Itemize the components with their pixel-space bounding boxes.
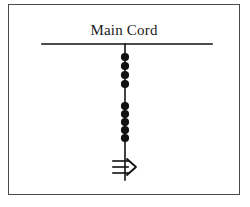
node-dot xyxy=(121,53,129,61)
node-dot xyxy=(121,126,129,134)
node-dot xyxy=(121,80,129,88)
terminal-ground-arrow xyxy=(113,159,136,175)
node-dot xyxy=(121,102,129,110)
node-dot xyxy=(121,110,129,118)
node-dot xyxy=(121,71,129,79)
node-dot xyxy=(121,62,129,70)
figure-root: Main Cord xyxy=(0,0,250,207)
main-cord-label: Main Cord xyxy=(0,22,250,39)
lower-node-cluster xyxy=(121,102,129,142)
node-dot xyxy=(121,118,129,126)
node-dot xyxy=(121,134,129,142)
